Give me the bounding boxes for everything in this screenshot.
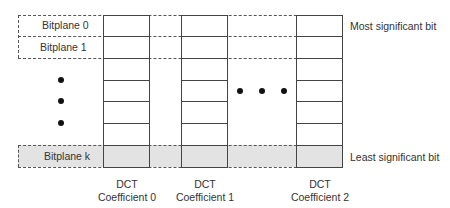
bitplane-k-label: Bitplane k [44,150,90,162]
column-1-label-line1: DCT [165,178,245,191]
lsb-dash-line [18,167,342,168]
column-1-label: DCT Coefficient 1 [165,178,245,204]
column-2-label-line2: Coefficient 2 [280,191,360,204]
bitplane-0-label: Bitplane 0 [42,19,89,31]
column-0-label: DCT Coefficient 0 [87,178,167,204]
bitplane-dash-line [18,58,342,59]
lsb-box-left-edge [18,145,19,167]
column-1-label-line2: Coefficient 1 [165,191,245,204]
column-2-label: DCT Coefficient 2 [280,178,360,204]
vertical-ellipsis-dot [58,120,64,126]
bitplane-1-label: Bitplane 1 [40,41,87,53]
horizontal-ellipsis-dot [237,88,243,94]
vertical-ellipsis-dot [58,77,64,83]
msb-annotation: Most significant bit [350,20,436,32]
column-0-label-line2: Coefficient 0 [87,191,167,204]
bitplane-box-left-edge [18,15,19,58]
vertical-ellipsis-dot [58,98,64,104]
horizontal-ellipsis-dot [281,88,287,94]
column-2-label-line1: DCT [280,178,360,191]
lsb-annotation: Least significant bit [350,151,439,163]
bitplane-dash-line [18,15,342,16]
lsb-dash-line [18,145,342,146]
horizontal-ellipsis-dot [259,88,265,94]
column-0-label-line1: DCT [87,178,167,191]
bitplane-dash-line [18,36,342,37]
